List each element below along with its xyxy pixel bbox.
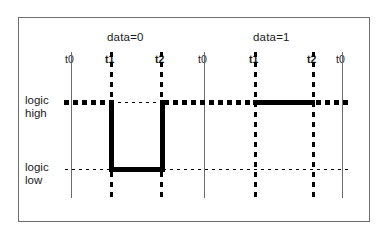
axis-label-logic-high: logic high [25, 94, 49, 119]
waveform-high-dots-lead [64, 100, 112, 105]
section-label-data0: data=0 [107, 32, 144, 44]
time-label-t0-3: t0 [336, 54, 345, 65]
waveform-data1-high-segment [253, 100, 315, 105]
waveform-high-dots-mid [164, 100, 256, 105]
time-label-t0-1: t0 [65, 54, 74, 65]
gridline-t1-2 [254, 52, 257, 198]
reference-line-logic-low [65, 169, 348, 170]
gridline-t0-3 [342, 52, 343, 198]
axis-label-logic-low: logic low [25, 161, 49, 186]
waveform-data0-rising-edge [160, 100, 165, 172]
gridline-t2-2 [312, 52, 315, 198]
section-label-data1: data=1 [253, 32, 290, 44]
waveform-data0-falling-edge [109, 100, 114, 172]
axis-label-logic-low-line1: logic [25, 161, 49, 174]
axis-label-logic-low-line2: low [25, 174, 49, 187]
axis-label-logic-high-line1: logic [25, 94, 49, 107]
gridline-t0-1 [71, 52, 72, 198]
gridline-t0-2 [204, 52, 205, 198]
reference-line-logic-high [111, 102, 165, 103]
waveform-data0-low-segment [109, 167, 165, 172]
time-label-t0-2: t0 [198, 54, 207, 65]
timing-diagram: data=0 data=1 t0 t1 t2 t0 t1 t2 t0 logic… [0, 0, 390, 241]
waveform-high-dots-tail [316, 100, 350, 105]
axis-label-logic-high-line2: high [25, 107, 49, 120]
